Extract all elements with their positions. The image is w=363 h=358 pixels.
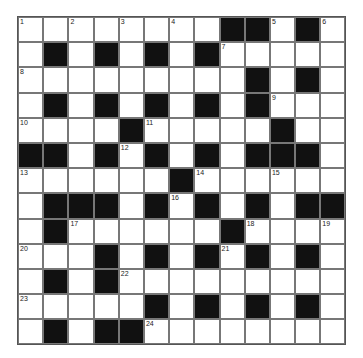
- crossword-cell[interactable]: [295, 93, 320, 118]
- crossword-cell[interactable]: [320, 42, 345, 67]
- crossword-cell[interactable]: [194, 67, 219, 92]
- crossword-cell[interactable]: [119, 193, 144, 218]
- crossword-cell[interactable]: [320, 319, 345, 344]
- crossword-cell[interactable]: 4: [169, 17, 194, 42]
- crossword-cell[interactable]: [169, 118, 194, 143]
- crossword-cell[interactable]: 19: [320, 219, 345, 244]
- crossword-cell[interactable]: [68, 244, 93, 269]
- crossword-cell[interactable]: [295, 269, 320, 294]
- crossword-cell[interactable]: [270, 193, 295, 218]
- crossword-cell[interactable]: [94, 294, 119, 319]
- crossword-cell[interactable]: [194, 269, 219, 294]
- crossword-cell[interactable]: [169, 143, 194, 168]
- crossword-cell[interactable]: [270, 269, 295, 294]
- crossword-cell[interactable]: 6: [320, 17, 345, 42]
- crossword-cell[interactable]: [18, 319, 43, 344]
- crossword-cell[interactable]: [220, 143, 245, 168]
- crossword-cell[interactable]: [68, 269, 93, 294]
- crossword-cell[interactable]: [43, 294, 68, 319]
- crossword-cell[interactable]: [270, 42, 295, 67]
- crossword-cell[interactable]: [245, 118, 270, 143]
- crossword-cell[interactable]: 16: [169, 193, 194, 218]
- crossword-cell[interactable]: 15: [270, 168, 295, 193]
- crossword-cell[interactable]: 5: [270, 17, 295, 42]
- crossword-cell[interactable]: [68, 143, 93, 168]
- crossword-cell[interactable]: 1: [18, 17, 43, 42]
- crossword-cell[interactable]: [169, 319, 194, 344]
- crossword-cell[interactable]: [245, 269, 270, 294]
- crossword-cell[interactable]: [43, 244, 68, 269]
- crossword-cell[interactable]: [220, 118, 245, 143]
- crossword-cell[interactable]: [320, 118, 345, 143]
- crossword-cell[interactable]: [169, 93, 194, 118]
- crossword-cell[interactable]: 12: [119, 143, 144, 168]
- crossword-cell[interactable]: [119, 93, 144, 118]
- crossword-cell[interactable]: [169, 294, 194, 319]
- crossword-cell[interactable]: 3: [119, 17, 144, 42]
- crossword-cell[interactable]: 18: [245, 219, 270, 244]
- crossword-cell[interactable]: [320, 168, 345, 193]
- crossword-cell[interactable]: 7: [220, 42, 245, 67]
- crossword-cell[interactable]: [68, 118, 93, 143]
- crossword-cell[interactable]: [320, 269, 345, 294]
- crossword-cell[interactable]: [119, 294, 144, 319]
- crossword-cell[interactable]: [194, 319, 219, 344]
- crossword-cell[interactable]: [169, 67, 194, 92]
- crossword-cell[interactable]: [295, 319, 320, 344]
- crossword-cell[interactable]: [220, 168, 245, 193]
- crossword-cell[interactable]: [270, 319, 295, 344]
- crossword-cell[interactable]: [94, 168, 119, 193]
- crossword-cell[interactable]: 20: [18, 244, 43, 269]
- crossword-cell[interactable]: [94, 67, 119, 92]
- crossword-cell[interactable]: [194, 219, 219, 244]
- crossword-cell[interactable]: [295, 118, 320, 143]
- crossword-cell[interactable]: 10: [18, 118, 43, 143]
- crossword-cell[interactable]: [144, 67, 169, 92]
- crossword-cell[interactable]: [144, 168, 169, 193]
- crossword-cell[interactable]: [144, 219, 169, 244]
- crossword-cell[interactable]: [18, 42, 43, 67]
- crossword-cell[interactable]: [68, 319, 93, 344]
- crossword-cell[interactable]: [68, 168, 93, 193]
- crossword-cell[interactable]: [270, 244, 295, 269]
- crossword-cell[interactable]: [245, 319, 270, 344]
- crossword-cell[interactable]: 23: [18, 294, 43, 319]
- crossword-cell[interactable]: [94, 219, 119, 244]
- crossword-cell[interactable]: [68, 93, 93, 118]
- crossword-cell[interactable]: 2: [68, 17, 93, 42]
- crossword-cell[interactable]: [169, 244, 194, 269]
- crossword-cell[interactable]: [94, 17, 119, 42]
- crossword-cell[interactable]: [220, 67, 245, 92]
- crossword-cell[interactable]: [119, 244, 144, 269]
- crossword-cell[interactable]: [245, 42, 270, 67]
- crossword-cell[interactable]: [220, 193, 245, 218]
- crossword-cell[interactable]: [119, 168, 144, 193]
- crossword-cell[interactable]: [18, 269, 43, 294]
- crossword-cell[interactable]: [220, 93, 245, 118]
- crossword-cell[interactable]: [194, 118, 219, 143]
- crossword-cell[interactable]: [169, 219, 194, 244]
- crossword-cell[interactable]: [144, 269, 169, 294]
- crossword-cell[interactable]: 21: [220, 244, 245, 269]
- crossword-cell[interactable]: [320, 244, 345, 269]
- crossword-cell[interactable]: [245, 168, 270, 193]
- crossword-cell[interactable]: [220, 319, 245, 344]
- crossword-cell[interactable]: [194, 17, 219, 42]
- crossword-cell[interactable]: [320, 294, 345, 319]
- crossword-cell[interactable]: [270, 219, 295, 244]
- crossword-cell[interactable]: 24: [144, 319, 169, 344]
- crossword-cell[interactable]: [68, 42, 93, 67]
- crossword-cell[interactable]: 13: [18, 168, 43, 193]
- crossword-cell[interactable]: [295, 219, 320, 244]
- crossword-cell[interactable]: [295, 168, 320, 193]
- crossword-cell[interactable]: [43, 118, 68, 143]
- crossword-cell[interactable]: [18, 219, 43, 244]
- crossword-cell[interactable]: [320, 93, 345, 118]
- crossword-cell[interactable]: [94, 118, 119, 143]
- crossword-cell[interactable]: [169, 269, 194, 294]
- crossword-cell[interactable]: [295, 42, 320, 67]
- crossword-cell[interactable]: [320, 143, 345, 168]
- crossword-cell[interactable]: [18, 93, 43, 118]
- crossword-cell[interactable]: [43, 67, 68, 92]
- crossword-cell[interactable]: 8: [18, 67, 43, 92]
